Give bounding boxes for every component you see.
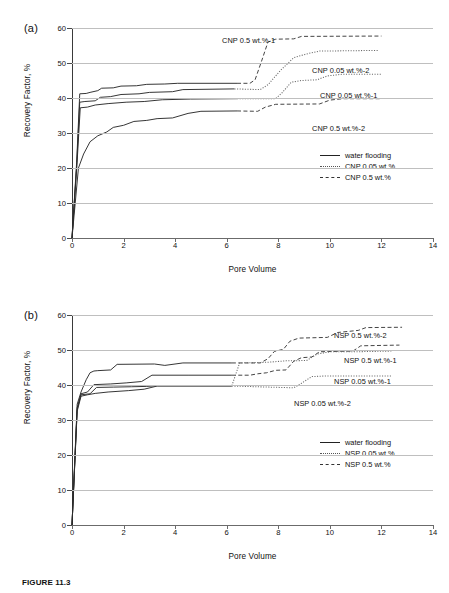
gridline: [72, 455, 433, 456]
y-axis-tick-mark: [67, 203, 72, 204]
legend-item-label: NSP 0.05 wt.%: [345, 449, 395, 458]
x-axis-tick-label: 12: [369, 528, 393, 537]
x-axis-tick-mark: [72, 238, 73, 242]
gridline: [72, 133, 433, 134]
series-annotation-label: NSP 0.05 wt.%-2: [294, 399, 351, 408]
x-axis-tick-label: 4: [163, 241, 187, 250]
series-path: [72, 111, 237, 238]
x-axis-tick-label: 14: [421, 241, 445, 250]
x-axis-tick-mark: [124, 525, 125, 529]
x-axis-tick-mark: [381, 238, 382, 242]
x-axis-line-b: [72, 525, 434, 526]
y-axis-tick-mark: [67, 455, 72, 456]
y-axis-label-b: Recovery Factor, %: [23, 313, 32, 463]
legend-line-swatch-solid: [320, 439, 340, 446]
x-axis-tick-mark: [124, 238, 125, 242]
y-axis-tick-mark: [67, 350, 72, 351]
gridline: [72, 98, 433, 99]
y-axis-tick-label: 10: [38, 486, 66, 495]
legend-item-label: CNP 0.05 wt.%: [345, 162, 395, 171]
series-path: [72, 83, 237, 238]
y-axis-tick-mark: [67, 28, 72, 29]
x-axis-tick-mark: [227, 525, 228, 529]
legend-a: water floodingCNP 0.05 wt.%CNP 0.5 wt.%: [320, 150, 395, 183]
legend-item-label: NSP 0.5 wt.%: [345, 460, 390, 469]
chart-panel-a: (a) Recovery Factor, % Pore Volume CNP 0…: [0, 0, 449, 290]
legend-item: water flooding: [320, 150, 395, 161]
x-axis-label-b: Pore Volume: [72, 552, 433, 561]
x-axis-tick-label: 10: [318, 241, 342, 250]
y-axis-tick-mark: [67, 420, 72, 421]
y-axis-tick-label: 10: [38, 199, 66, 208]
series-annotation-label: NSP 0.5 wt.%-2: [334, 331, 387, 340]
x-axis-tick-mark: [72, 525, 73, 529]
y-axis-tick-mark: [67, 133, 72, 134]
legend-line-swatch-dashed: [320, 174, 340, 181]
series-annotation-label: CNP 0.05 wt.%-2: [312, 66, 369, 75]
y-axis-tick-label: 20: [38, 164, 66, 173]
gridline: [72, 168, 433, 169]
y-axis-tick-mark: [67, 490, 72, 491]
y-axis-tick-label: 50: [38, 59, 66, 68]
y-axis-tick-label: 20: [38, 451, 66, 460]
x-axis-tick-mark: [433, 238, 434, 242]
series-path: [72, 375, 232, 525]
y-axis-tick-mark: [67, 168, 72, 169]
figure-caption: FIGURE 11.3: [22, 578, 71, 587]
series-annotation-label: CNP 0.5 wt.%-1: [222, 36, 275, 45]
x-axis-tick-label: 2: [112, 241, 136, 250]
legend-item-label: water flooding: [345, 438, 391, 447]
x-axis-tick-label: 12: [369, 241, 393, 250]
legend-item: CNP 0.5 wt.%: [320, 172, 395, 183]
series-annotation-label: NSP 0.5 wt.%-1: [344, 356, 397, 365]
y-axis-tick-label: 60: [38, 24, 66, 33]
x-axis-label-a: Pore Volume: [72, 265, 433, 274]
y-axis-tick-label: 30: [38, 416, 66, 425]
y-axis-tick-mark: [67, 63, 72, 64]
y-axis-tick-label: 40: [38, 94, 66, 103]
y-axis-tick-mark: [67, 98, 72, 99]
legend-item: NSP 0.5 wt.%: [320, 459, 395, 470]
figure-container: (a) Recovery Factor, % Pore Volume CNP 0…: [0, 0, 449, 593]
x-axis-tick-mark: [175, 238, 176, 242]
legend-item-label: CNP 0.5 wt.%: [345, 173, 391, 182]
legend-item: NSP 0.05 wt.%: [320, 448, 395, 459]
x-axis-tick-label: 4: [163, 528, 187, 537]
y-axis-tick-mark: [67, 385, 72, 386]
gridline: [72, 420, 433, 421]
gridline: [72, 63, 433, 64]
y-axis-label-a: Recovery Factor, %: [23, 26, 32, 176]
x-axis-line-a: [72, 238, 434, 239]
legend-item: CNP 0.05 wt.%: [320, 161, 395, 172]
y-axis-tick-label: 30: [38, 129, 66, 138]
y-axis-tick-mark: [67, 315, 72, 316]
x-axis-tick-label: 0: [60, 528, 84, 537]
x-axis-tick-mark: [433, 525, 434, 529]
x-axis-tick-mark: [330, 525, 331, 529]
x-axis-tick-mark: [381, 525, 382, 529]
x-axis-tick-mark: [278, 525, 279, 529]
legend-line-swatch-solid: [320, 152, 340, 159]
gridline: [72, 203, 433, 204]
y-axis-tick-label: 50: [38, 346, 66, 355]
y-axis-tick-label: 40: [38, 381, 66, 390]
x-axis-tick-label: 8: [266, 528, 290, 537]
x-axis-tick-label: 0: [60, 241, 84, 250]
gridline: [72, 28, 433, 29]
x-axis-tick-label: 6: [215, 241, 239, 250]
x-axis-tick-mark: [175, 525, 176, 529]
series-annotation-label: CNP 0.5 wt.%-2: [312, 124, 365, 133]
x-axis-tick-label: 14: [421, 528, 445, 537]
x-axis-tick-mark: [227, 238, 228, 242]
legend-item: water flooding: [320, 437, 395, 448]
x-axis-tick-label: 6: [215, 528, 239, 537]
legend-b: water floodingNSP 0.05 wt.%NSP 0.5 wt.%: [320, 437, 395, 470]
chart-panel-b: (b) Recovery Factor, % Pore Volume NSP 0…: [0, 287, 449, 577]
x-axis-tick-label: 8: [266, 241, 290, 250]
gridline: [72, 350, 433, 351]
gridline: [72, 385, 433, 386]
y-axis-tick-label: 60: [38, 311, 66, 320]
gridline: [72, 490, 433, 491]
x-axis-tick-mark: [330, 238, 331, 242]
gridline: [72, 315, 433, 316]
